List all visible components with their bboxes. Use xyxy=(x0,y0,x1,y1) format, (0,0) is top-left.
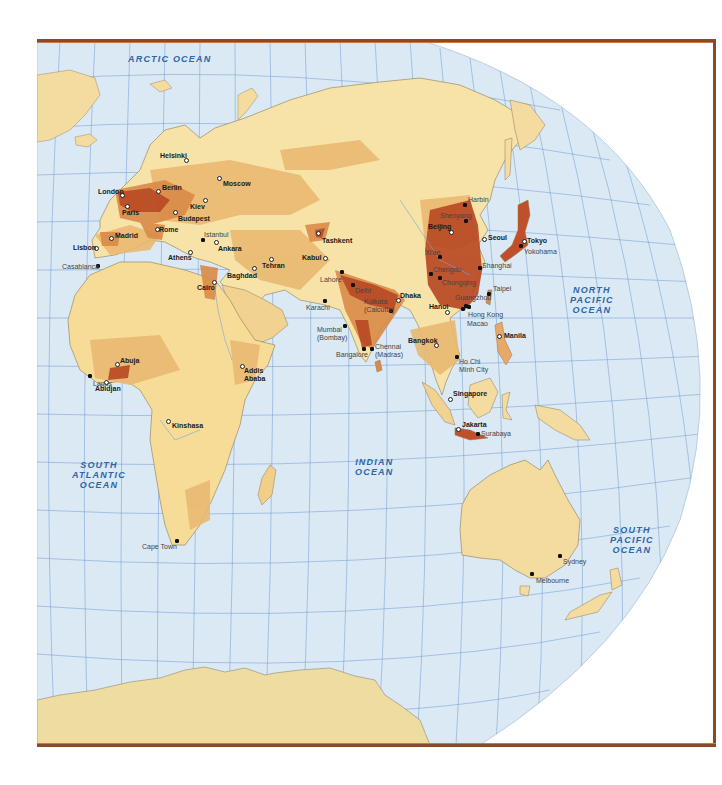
city-label: Hanoi xyxy=(429,303,448,311)
map-graphic xyxy=(37,40,715,745)
city-marker-icon xyxy=(558,554,562,558)
city-label: Surabaya xyxy=(481,430,511,438)
city-label: Manila xyxy=(504,332,526,340)
city-label: Melbourne xyxy=(536,577,569,585)
city-label: Kabul xyxy=(302,254,321,262)
city-marker-icon xyxy=(109,236,114,241)
city-label: Tashkent xyxy=(322,237,352,245)
city-label: London xyxy=(98,188,124,196)
city-marker-icon xyxy=(252,266,257,271)
city-label: Athens xyxy=(168,254,192,262)
map-border-right xyxy=(713,39,716,747)
city-marker-icon xyxy=(456,427,461,432)
city-label: Kinshasa xyxy=(172,422,203,430)
ocean-label-north-pacific: NORTH PACIFIC OCEAN xyxy=(570,285,614,315)
city-label: Sydney xyxy=(563,558,586,566)
city-label: Chennai (Madras) xyxy=(375,343,403,359)
city-label: Chongqing xyxy=(442,279,476,287)
city-label: Cape Town xyxy=(142,543,177,551)
city-label: Kiev xyxy=(190,203,205,211)
city-label: Ankara xyxy=(218,245,242,253)
city-label: Taipei xyxy=(493,285,511,293)
city-label: Lisbon xyxy=(73,244,96,252)
city-label: Addis Ababa xyxy=(244,367,265,383)
city-marker-icon xyxy=(487,292,491,296)
city-marker-icon xyxy=(156,189,161,194)
city-label: Shenyang xyxy=(440,212,472,220)
city-label: Abidjan xyxy=(95,385,121,393)
city-label: Berlin xyxy=(162,184,182,192)
city-label: Budapest xyxy=(178,215,210,223)
city-marker-icon xyxy=(316,231,321,236)
ocean-label-south-atlantic: SOUTH ATLANTIC OCEAN xyxy=(72,460,126,490)
city-marker-icon xyxy=(519,244,523,248)
city-label: Abuja xyxy=(120,357,139,365)
city-label: Karachi xyxy=(306,304,330,312)
city-label: Xi'an xyxy=(425,249,440,257)
city-marker-icon xyxy=(370,347,374,351)
city-label: Delhi xyxy=(355,287,371,295)
city-label: Baghdad xyxy=(227,272,257,280)
city-label: Yokohama xyxy=(524,248,557,256)
city-marker-icon xyxy=(166,419,171,424)
city-label: Dhaka xyxy=(400,292,421,300)
city-label: Tehran xyxy=(262,262,285,270)
city-marker-icon xyxy=(463,203,467,207)
ocean-label-south-pacific: SOUTH PACIFIC OCEAN xyxy=(610,525,654,555)
city-label: Cairo xyxy=(197,284,215,292)
city-marker-icon xyxy=(530,572,534,576)
city-marker-icon xyxy=(88,374,92,378)
ocean-label-arctic: ARCTIC OCEAN xyxy=(128,54,211,64)
city-label: Guangzhou xyxy=(455,294,491,302)
city-label: Moscow xyxy=(223,180,251,188)
city-label: Macao xyxy=(467,320,488,328)
city-marker-icon xyxy=(497,334,502,339)
city-label: Harbin xyxy=(468,196,489,204)
ocean-label-indian: INDIAN OCEAN xyxy=(355,457,394,477)
city-label: Casablanca xyxy=(62,263,99,271)
city-label: Mumbai (Bombay) xyxy=(317,326,347,342)
city-label: Kolkata (Calcutta) xyxy=(364,298,394,314)
city-marker-icon xyxy=(340,270,344,274)
city-label: Beijing xyxy=(428,223,451,231)
city-label: Chengdu xyxy=(433,266,461,274)
city-label: Paris xyxy=(122,209,139,217)
city-marker-icon xyxy=(482,237,487,242)
city-label: Istanbul xyxy=(204,231,229,239)
city-label: Singapore xyxy=(453,390,487,398)
city-marker-icon xyxy=(461,307,465,311)
city-label: Madrid xyxy=(115,232,138,240)
city-label: Ho Chi Minh City xyxy=(459,358,488,374)
city-label: Bangalore xyxy=(336,351,368,359)
landmass-tasmania xyxy=(520,586,530,596)
city-label: Hong Kong xyxy=(468,311,503,319)
map-border-bottom xyxy=(37,743,716,747)
city-marker-icon xyxy=(217,176,222,181)
city-label: Bangkok xyxy=(408,337,438,345)
map-border-top xyxy=(37,39,716,43)
city-label: Lahore xyxy=(320,276,342,284)
city-label: Tokyo xyxy=(527,237,547,245)
city-marker-icon xyxy=(323,256,328,261)
city-label: Helsinki xyxy=(160,152,187,160)
city-marker-icon xyxy=(467,305,471,309)
city-marker-icon xyxy=(323,299,327,303)
city-label: Seoul xyxy=(488,234,507,242)
city-label: Shanghai xyxy=(482,262,512,270)
city-label: Rome xyxy=(159,226,178,234)
city-label: Jakarta xyxy=(462,421,487,429)
city-marker-icon xyxy=(476,432,480,436)
map-canvas: ARCTIC OCEAN NORTH PACIFIC OCEAN INDIAN … xyxy=(37,40,715,745)
